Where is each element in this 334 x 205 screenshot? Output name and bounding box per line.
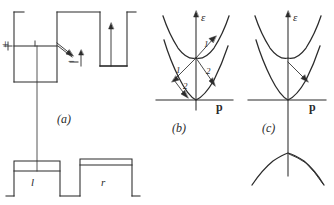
panel-c-epsilon-arrowhead [286,11,291,17]
panel-b-epsilon-arrowhead [194,11,199,17]
panel-b-arrow-label-2-right: 2 [206,67,211,76]
panel-b-arrow-label-1-left: 1 [176,66,181,75]
short-up-arrow-head [79,50,84,55]
panel-b-arrow-label-2-left: 2 [183,82,188,91]
minus-sign-label: − [68,55,75,67]
panel-a-lower-blocks [6,46,140,196]
figure-svg [0,0,334,205]
panel-b-p-axis-label: p [216,101,223,113]
panel-b-arrow-label-1-upper: 1 [204,40,209,49]
panel-c-epsilon-axis-label: ε [293,12,297,23]
left-region-label: l [31,177,34,188]
panel-b-arrow-1-upper-head [209,36,216,43]
panel-a-upper-potential [4,12,136,82]
long-up-arrow-head [109,23,114,29]
panel-c-valence-band-second [289,154,323,184]
panel-c-label: (c) [262,122,275,134]
panel-b-band-diagram [156,11,233,110]
panel-c-band-diagram [248,11,326,185]
panel-a-label: (a) [57,113,71,125]
panel-b-label: (b) [172,122,186,134]
panel-b-epsilon-axis-label: ε [201,12,205,23]
right-region-label: r [101,177,105,188]
figure-container: + − (a) l r ε p 1 2 1 2 (b) ε p (c) [0,0,334,205]
plus-sign-label: + [2,39,9,51]
panel-c-p-axis-label: p [309,101,316,113]
